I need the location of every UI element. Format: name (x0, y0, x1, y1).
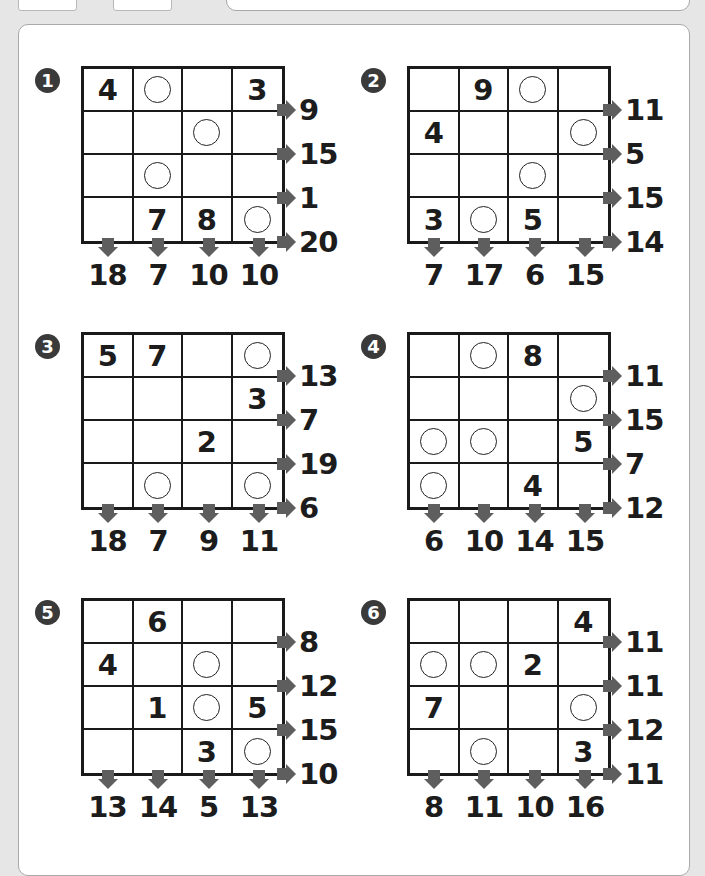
grid-cell[interactable] (233, 464, 283, 507)
grid-cell[interactable] (460, 421, 510, 464)
grid-cell[interactable]: 1 (134, 687, 184, 730)
grid-cell[interactable] (509, 155, 559, 198)
grid-cell[interactable] (509, 601, 559, 644)
grid-cell[interactable] (84, 198, 134, 241)
grid-cell[interactable]: 2 (183, 421, 233, 464)
grid-cell[interactable] (410, 69, 460, 112)
grid-cell[interactable] (559, 687, 609, 730)
grid-cell[interactable] (509, 730, 559, 773)
grid-cell[interactable] (410, 644, 460, 687)
grid-cell[interactable] (559, 155, 609, 198)
grid-cell[interactable]: 4 (410, 112, 460, 155)
grid-cell[interactable] (183, 687, 233, 730)
grid-cell[interactable] (84, 730, 134, 773)
top-tab-middle[interactable] (113, 0, 172, 11)
grid-cell[interactable] (410, 464, 460, 507)
grid-cell[interactable]: 3 (183, 730, 233, 773)
grid-cell[interactable] (134, 464, 184, 507)
grid-cell[interactable] (84, 112, 134, 155)
grid-cell[interactable] (233, 730, 283, 773)
grid-cell[interactable] (460, 155, 510, 198)
grid-cell[interactable] (183, 335, 233, 378)
grid-cell[interactable] (183, 69, 233, 112)
grid-cell[interactable] (410, 335, 460, 378)
grid-cell[interactable] (233, 601, 283, 644)
grid-cell[interactable]: 9 (460, 69, 510, 112)
top-tab-left[interactable] (18, 0, 77, 11)
grid-cell[interactable] (183, 601, 233, 644)
grid-cell[interactable]: 5 (84, 335, 134, 378)
grid-cell[interactable] (134, 730, 184, 773)
grid-cell[interactable]: 7 (134, 198, 184, 241)
grid-cell[interactable]: 2 (509, 644, 559, 687)
grid-cell[interactable] (84, 421, 134, 464)
grid-cell[interactable] (233, 644, 283, 687)
grid-cell[interactable] (460, 378, 510, 421)
grid-cell[interactable] (460, 464, 510, 507)
grid-cell[interactable]: 5 (509, 198, 559, 241)
grid-cell[interactable] (233, 421, 283, 464)
grid-cell[interactable] (183, 644, 233, 687)
grid-cell[interactable]: 3 (410, 198, 460, 241)
grid-cell[interactable] (509, 112, 559, 155)
grid-cell[interactable] (509, 378, 559, 421)
grid-cell[interactable]: 5 (559, 421, 609, 464)
grid-cell[interactable] (233, 112, 283, 155)
grid-cell[interactable] (84, 601, 134, 644)
grid-cell[interactable] (460, 112, 510, 155)
grid-cell[interactable] (134, 378, 184, 421)
grid-cell[interactable] (509, 421, 559, 464)
grid-cell[interactable]: 8 (509, 335, 559, 378)
grid-cell[interactable]: 5 (233, 687, 283, 730)
grid-cell[interactable] (559, 198, 609, 241)
grid-cell[interactable] (134, 69, 184, 112)
grid-cell[interactable] (559, 69, 609, 112)
grid-cell[interactable] (183, 464, 233, 507)
grid-cell[interactable] (233, 335, 283, 378)
grid-cell[interactable] (410, 155, 460, 198)
grid-cell[interactable] (84, 378, 134, 421)
grid-cell[interactable]: 7 (134, 335, 184, 378)
grid-cell[interactable]: 6 (134, 601, 184, 644)
grid-cell[interactable] (183, 112, 233, 155)
grid-cell[interactable]: 4 (509, 464, 559, 507)
grid-cell[interactable] (460, 198, 510, 241)
grid-cell[interactable] (410, 421, 460, 464)
grid-cell[interactable] (509, 687, 559, 730)
grid-cell[interactable] (460, 335, 510, 378)
grid-cell[interactable] (410, 378, 460, 421)
arrow-down-icon (459, 770, 510, 790)
grid-cell[interactable] (233, 198, 283, 241)
grid-cell[interactable] (134, 644, 184, 687)
grid-cell[interactable] (183, 378, 233, 421)
grid-cell[interactable]: 3 (233, 378, 283, 421)
grid-cell[interactable]: 8 (183, 198, 233, 241)
grid-cell[interactable] (84, 464, 134, 507)
grid-cell[interactable] (559, 378, 609, 421)
grid-cell[interactable] (410, 730, 460, 773)
grid-cell[interactable] (559, 112, 609, 155)
grid-cell[interactable] (559, 644, 609, 687)
grid-cell[interactable] (134, 155, 184, 198)
grid-cell[interactable] (460, 644, 510, 687)
grid-cell[interactable]: 3 (559, 730, 609, 773)
grid-cell[interactable]: 3 (233, 69, 283, 112)
grid-cell[interactable] (559, 335, 609, 378)
grid-cell[interactable] (233, 155, 283, 198)
grid-cell[interactable]: 4 (559, 601, 609, 644)
grid-cell[interactable] (410, 601, 460, 644)
grid-cell[interactable] (559, 464, 609, 507)
grid-cell[interactable] (134, 421, 184, 464)
grid-cell[interactable] (509, 69, 559, 112)
grid-cell[interactable] (134, 112, 184, 155)
grid-cell[interactable] (84, 687, 134, 730)
grid-cell[interactable] (183, 155, 233, 198)
grid-cell[interactable]: 4 (84, 644, 134, 687)
grid-cell[interactable] (460, 601, 510, 644)
grid-cell[interactable]: 4 (84, 69, 134, 112)
top-input-field[interactable] (226, 0, 690, 11)
grid-cell[interactable] (460, 687, 510, 730)
grid-cell[interactable] (84, 155, 134, 198)
grid-cell[interactable]: 7 (410, 687, 460, 730)
grid-cell[interactable] (460, 730, 510, 773)
